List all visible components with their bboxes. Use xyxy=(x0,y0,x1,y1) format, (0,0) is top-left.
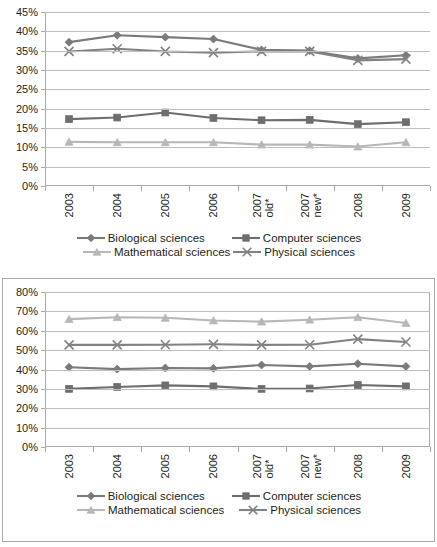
y-tick-label: 35% xyxy=(16,45,38,56)
x-tick-mark xyxy=(286,447,287,452)
gridline xyxy=(45,428,430,429)
gridline xyxy=(45,311,430,312)
y-tick-mark xyxy=(41,128,45,129)
legend-label-physical: Physical sciences xyxy=(264,246,355,258)
legend-item-biological[interactable]: Biological sciences xyxy=(76,490,205,502)
legend-item-mathematical[interactable]: Mathematical sciences xyxy=(76,504,224,516)
bottom-chart-legend: Biological sciences Computer sciences Ma… xyxy=(0,490,437,516)
y-tick-label: 50% xyxy=(16,345,38,356)
x-marker-icon xyxy=(238,504,268,516)
y-tick-mark xyxy=(41,51,45,52)
y-tick-label: 40% xyxy=(16,26,38,37)
legend-item-computer[interactable]: Computer sciences xyxy=(231,232,361,244)
y-tick-mark xyxy=(41,408,45,409)
legend-label-biological: Biological sciences xyxy=(108,490,205,502)
series-physical xyxy=(65,44,411,65)
y-tick-label: 25% xyxy=(16,84,38,95)
y-tick-label: 45% xyxy=(16,7,38,18)
x-tick-mark xyxy=(238,447,239,452)
x-tick-label: 2006 xyxy=(207,193,219,217)
x-tick-label: 2007new* xyxy=(299,193,323,217)
gridline xyxy=(45,12,430,13)
y-tick-label: 80% xyxy=(16,287,38,298)
y-tick-mark xyxy=(41,31,45,32)
y-tick-mark xyxy=(41,428,45,429)
top-chart-legend: Biological sciences Computer sciences Ma… xyxy=(0,232,437,258)
x-tick-mark xyxy=(430,186,431,191)
gridline xyxy=(45,350,430,351)
x-tick-label: 2004 xyxy=(111,454,123,478)
x-tick-mark xyxy=(45,447,46,452)
gridline xyxy=(45,147,430,148)
y-tick-mark xyxy=(41,147,45,148)
legend-label-computer: Computer sciences xyxy=(263,232,361,244)
series-mathematical xyxy=(65,313,410,326)
y-tick-label: 5% xyxy=(22,161,38,172)
x-tick-label: 2005 xyxy=(159,193,171,217)
y-tick-label: 0% xyxy=(22,181,38,192)
y-tick-mark xyxy=(41,167,45,168)
legend-item-mathematical[interactable]: Mathematical sciences xyxy=(82,246,230,258)
x-tick-label: 2009 xyxy=(400,454,412,478)
x-tick-mark xyxy=(93,447,94,452)
x-tick-mark xyxy=(382,447,383,452)
bottom-chart-block: 80%70%60%50%40%30%20%10%0% 2003200420052… xyxy=(0,280,437,547)
y-tick-label: 0% xyxy=(22,442,38,453)
gridline xyxy=(45,331,430,332)
series-physical xyxy=(65,335,411,350)
x-tick-label: 2003 xyxy=(63,454,75,478)
legend-label-mathematical: Mathematical sciences xyxy=(108,504,224,516)
x-tick-label: 2008 xyxy=(352,454,364,478)
x-tick-mark xyxy=(45,186,46,191)
x-tick-mark xyxy=(238,186,239,191)
y-tick-label: 15% xyxy=(16,123,38,134)
y-tick-mark xyxy=(41,89,45,90)
diamond-marker-icon xyxy=(76,232,106,244)
x-tick-label: 2007old* xyxy=(251,454,275,478)
y-tick-label: 60% xyxy=(16,325,38,336)
y-tick-label: 70% xyxy=(16,306,38,317)
gridline xyxy=(45,408,430,409)
x-tick-label: 2004 xyxy=(111,193,123,217)
triangle-marker-icon xyxy=(82,246,112,258)
y-tick-label: 40% xyxy=(16,364,38,375)
legend-row-2: Mathematical sciences Physical sciences xyxy=(76,504,361,516)
legend-label-physical: Physical sciences xyxy=(270,504,361,516)
x-tick-label: 2009 xyxy=(400,193,412,217)
diamond-marker-icon xyxy=(76,490,106,502)
x-marker-icon xyxy=(232,246,262,258)
y-tick-mark xyxy=(41,292,45,293)
x-tick-mark xyxy=(189,447,190,452)
gridline xyxy=(45,128,430,129)
square-marker-icon xyxy=(231,490,261,502)
y-tick-mark xyxy=(41,109,45,110)
square-marker-icon xyxy=(231,232,261,244)
legend-item-physical[interactable]: Physical sciences xyxy=(238,504,361,516)
gridline xyxy=(45,89,430,90)
legend-item-physical[interactable]: Physical sciences xyxy=(232,246,355,258)
triangle-marker-icon xyxy=(76,504,106,516)
x-tick-label: 2007old* xyxy=(251,193,275,217)
legend-item-biological[interactable]: Biological sciences xyxy=(76,232,205,244)
y-tick-label: 10% xyxy=(16,422,38,433)
y-tick-mark xyxy=(41,350,45,351)
x-tick-mark xyxy=(382,186,383,191)
y-tick-label: 30% xyxy=(16,65,38,76)
x-tick-mark xyxy=(334,186,335,191)
legend-label-mathematical: Mathematical sciences xyxy=(114,246,230,258)
chart-page: 45%40%35%30%25%20%15%10%5%0% 20032004200… xyxy=(0,0,437,547)
y-tick-label: 30% xyxy=(16,383,38,394)
legend-item-computer[interactable]: Computer sciences xyxy=(231,490,361,502)
series-biological xyxy=(65,31,410,62)
gridline xyxy=(45,31,430,32)
series-computer xyxy=(66,109,410,127)
legend-label-computer: Computer sciences xyxy=(263,490,361,502)
x-tick-label: 2005 xyxy=(159,454,171,478)
x-tick-mark xyxy=(141,186,142,191)
legend-label-biological: Biological sciences xyxy=(108,232,205,244)
legend-row-1: Biological sciences Computer sciences xyxy=(76,490,362,502)
gridline xyxy=(45,167,430,168)
legend-row-1: Biological sciences Computer sciences xyxy=(76,232,362,244)
y-tick-label: 10% xyxy=(16,142,38,153)
x-tick-mark xyxy=(430,447,431,452)
